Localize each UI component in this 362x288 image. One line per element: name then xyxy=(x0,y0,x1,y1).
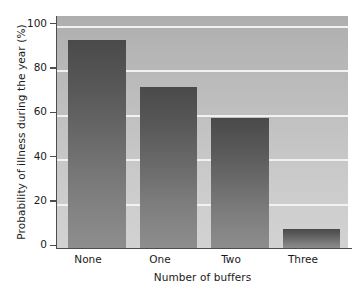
y-axis-title: Probability of illness during the year (… xyxy=(15,7,27,257)
bar-fill xyxy=(283,229,340,249)
x-tick-label-one: One xyxy=(120,254,200,265)
x-axis-title: Number of buffers xyxy=(57,271,348,283)
bar-fill xyxy=(140,87,197,249)
y-tick-mark-20 xyxy=(50,200,56,201)
gridline-100 xyxy=(57,26,348,28)
y-tick-label-40: 40 xyxy=(7,151,47,162)
bar-three xyxy=(283,229,340,249)
bar-fill xyxy=(68,40,126,249)
x-tick-label-three: Three xyxy=(263,254,343,265)
bar-fill xyxy=(211,118,269,249)
y-tick-label-60: 60 xyxy=(7,106,47,117)
y-tick-label-20: 20 xyxy=(7,195,47,206)
y-tick-mark-0 xyxy=(50,245,56,246)
bar-chart-figure: Probability of illness during the year (… xyxy=(0,0,362,288)
x-axis-line xyxy=(56,248,352,249)
y-tick-mark-100 xyxy=(50,23,56,24)
y-tick-label-100: 100 xyxy=(7,18,47,29)
x-tick-label-none: None xyxy=(48,254,128,265)
bar-one xyxy=(140,87,197,249)
y-tick-mark-60 xyxy=(50,112,56,113)
bar-none xyxy=(68,40,126,249)
y-axis-line xyxy=(56,16,57,249)
bar-two xyxy=(211,118,269,249)
x-tick-label-two: Two xyxy=(191,254,271,265)
y-tick-mark-80 xyxy=(50,67,56,68)
plot-area xyxy=(57,16,348,249)
y-tick-label-80: 80 xyxy=(7,62,47,73)
y-tick-label-0: 0 xyxy=(7,239,47,250)
y-tick-mark-40 xyxy=(50,156,56,157)
